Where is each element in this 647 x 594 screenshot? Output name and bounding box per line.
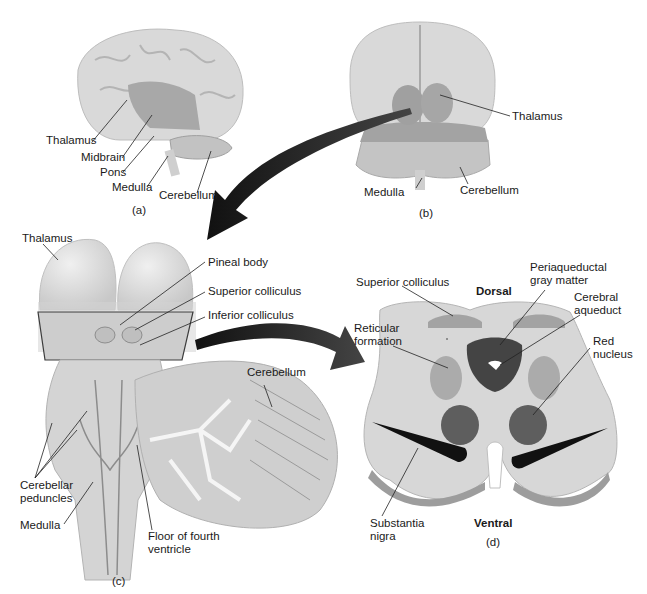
label-d-superior-colliculus: Superior colliculus [356,276,449,289]
label-c-medulla: Medulla [20,519,60,532]
label-d-reticular-formation: Reticular formation [354,322,402,348]
figure-artwork [0,0,647,594]
label-d-cerebral-aqueduct: Cerebral aqueduct [574,291,621,317]
label-a-medulla: Medulla [112,181,152,194]
label-b-medulla: Medulla [364,186,404,199]
label-c-floor-fourth-ventricle: Floor of fourth ventricle [148,530,220,556]
label-d-red-nucleus: Red nucleus [593,335,633,361]
label-d-periaqueductal-gray-matter: Periaqueductal gray matter [530,261,607,287]
label-a-thalamus: Thalamus [46,134,97,147]
label-d-dorsal: Dorsal [476,285,512,298]
label-b-thalamus: Thalamus [512,110,563,123]
caption-b: (b) [419,207,433,219]
label-a-cerebellum: Cerebellum [159,189,218,202]
label-a-pons: Pons [100,166,126,179]
label-c-thalamus: Thalamus [22,232,73,245]
label-c-cerebellar-peduncles: Cerebellar peduncles [20,479,73,505]
label-d-ventral: Ventral [474,517,512,530]
label-c-inferior-colliculus: Inferior colliculus [208,309,294,322]
panel-d-midbrain-section [364,302,617,507]
caption-a: (a) [132,204,146,216]
caption-c: (c) [112,575,125,587]
label-a-midbrain: Midbrain [81,151,125,164]
panel-b-brain-posterior [350,22,495,190]
caption-d: (d) [486,536,500,548]
label-c-superior-colliculus: Superior colliculus [208,285,301,298]
label-b-cerebellum: Cerebellum [460,184,519,197]
label-d-substantia-nigra: Substantia nigra [370,517,424,543]
label-c-cerebellum: Cerebellum [247,366,306,379]
label-c-pineal-body: Pineal body [208,256,268,269]
